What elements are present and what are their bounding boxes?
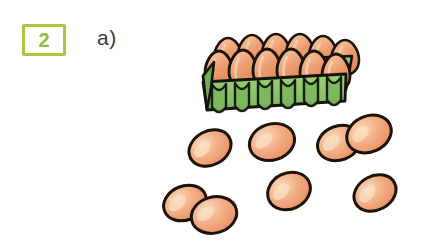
carton-egg-f5 <box>300 51 328 88</box>
exercise-part-label: a) <box>97 27 117 48</box>
carton-egg-b1 <box>214 38 242 72</box>
carton-base-front <box>203 74 346 110</box>
loose-egg-3 <box>313 120 366 167</box>
loose-egg-8 <box>348 168 403 219</box>
carton-egg-f4 <box>277 49 305 86</box>
loose-eggs-group <box>158 108 402 238</box>
carton-egg-f6 <box>322 54 350 91</box>
carton-egg-b3 <box>262 34 290 69</box>
loose-egg-7 <box>261 165 316 216</box>
carton-egg-b2 <box>238 35 266 70</box>
loose-egg-1 <box>183 123 238 174</box>
carton-egg-b4 <box>286 34 314 69</box>
carton-egg-f3 <box>253 49 281 86</box>
carton-left-end <box>203 62 214 110</box>
loose-egg-6 <box>187 192 241 239</box>
exercise-number-badge: 2 <box>22 24 66 56</box>
carton-back-row <box>214 34 359 75</box>
loose-egg-4 <box>341 108 398 160</box>
carton-egg-f2 <box>229 50 257 87</box>
worksheet-page: 2 a) <box>0 0 435 252</box>
egg-carton <box>203 34 359 112</box>
carton-egg-b6 <box>331 40 359 75</box>
carton-egg-b5 <box>309 36 337 71</box>
carton-upper-tray <box>203 56 352 97</box>
loose-egg-5 <box>158 179 212 227</box>
carton-front-row <box>205 49 350 91</box>
carton-egg-f1 <box>205 51 233 88</box>
carton-cup-dividers <box>212 77 341 112</box>
loose-egg-2 <box>245 118 300 166</box>
exercise-number: 2 <box>38 30 49 50</box>
